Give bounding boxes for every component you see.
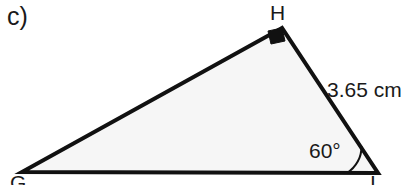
vertex-label-g: G [10, 172, 26, 185]
vertex-label-h: H [270, 2, 285, 23]
side-length-label: 3.65 cm [327, 79, 401, 100]
geometry-figure: c) H G I 3.65 cm 60° [0, 0, 401, 185]
right-angle-marker-icon [268, 28, 285, 44]
vertex-label-i: I [370, 172, 376, 185]
angle-measure-label: 60° [309, 140, 341, 161]
part-label: c) [7, 4, 28, 29]
